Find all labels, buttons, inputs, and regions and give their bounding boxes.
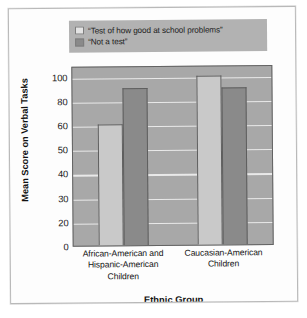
scan-frame: “Test of how good at school problems” “N… xyxy=(8,6,298,304)
legend-item-label: “Not a test” xyxy=(88,37,127,46)
legend-item-label: “Test of how good at school problems” xyxy=(88,25,223,35)
bar-not-a-test-group-2 xyxy=(222,87,248,244)
y-axis-tick-labels: 100 80 60 50 40 30 20 0 xyxy=(41,67,68,247)
y-tick-label: 50 xyxy=(42,144,68,155)
y-axis-title: Mean Score on Verbal Tasks xyxy=(19,65,32,215)
bar-group-african-hispanic xyxy=(76,67,169,246)
x-category-label-1: African-American and Hispanic-American C… xyxy=(73,248,174,283)
legend-item-test: “Test of how good at school problems” xyxy=(75,24,262,36)
y-tick-label: 30 xyxy=(42,193,68,204)
bar-test-group-1 xyxy=(98,125,124,246)
bar-container xyxy=(72,66,272,246)
legend-dark-swatch-icon xyxy=(75,38,84,46)
y-tick-label: 0 xyxy=(43,241,69,252)
figure-page: “Test of how good at school problems” “N… xyxy=(0,0,307,318)
x-axis-title: Ethnic Group xyxy=(73,293,274,303)
x-category-label-2: Caucasian-American Children xyxy=(173,247,274,282)
x-category-line: Hispanic-American xyxy=(88,259,158,270)
figure-canvas: “Test of how good at school problems” “N… xyxy=(9,7,297,303)
plot-area xyxy=(71,65,273,247)
legend-light-swatch-icon xyxy=(75,27,84,35)
y-tick-label: 20 xyxy=(42,217,68,228)
chart-legend: “Test of how good at school problems” “N… xyxy=(69,19,267,52)
x-category-line: African-American and xyxy=(83,248,164,259)
bar-chart: Mean Score on Verbal Tasks 100 80 60 50 … xyxy=(27,65,279,292)
x-category-line: Children xyxy=(208,259,239,269)
bar-not-a-test-group-1 xyxy=(122,88,148,245)
y-tick-label: 60 xyxy=(42,120,68,131)
x-category-line: Children xyxy=(108,271,139,281)
legend-item-not-a-test: “Not a test” xyxy=(75,35,262,47)
x-axis-category-labels: African-American and Hispanic-American C… xyxy=(73,247,274,283)
y-tick-label: 40 xyxy=(42,168,68,179)
x-category-line: Caucasian-American xyxy=(184,247,262,258)
y-tick-label: 80 xyxy=(42,96,68,107)
y-tick-label: 100 xyxy=(41,72,67,83)
bar-test-group-2 xyxy=(197,75,223,244)
bar-group-caucasian xyxy=(176,66,269,245)
